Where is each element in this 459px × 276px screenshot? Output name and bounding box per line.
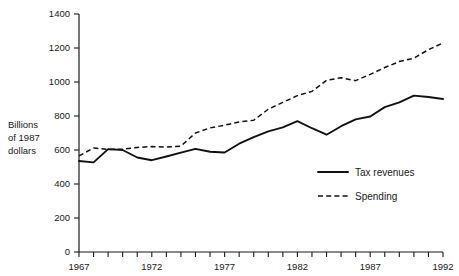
axes (79, 14, 443, 252)
x-tick-label-1992: 1992 (432, 261, 453, 272)
y-axis-title-line-1: Billions (8, 119, 38, 130)
series-line-spending (79, 43, 443, 156)
x-axis-tick-labels: 196719721977198219871992 (68, 261, 453, 272)
y-axis-title: Billions of 1987 dollars (8, 119, 40, 156)
x-axis-ticks (79, 252, 443, 257)
y-axis-title-line-3: dollars (8, 145, 36, 156)
y-tick-label-1000: 1000 (49, 76, 70, 87)
series-layer (79, 43, 443, 163)
y-tick-label-1400: 1400 (49, 8, 70, 19)
x-tick-label-1982: 1982 (287, 261, 308, 272)
y-tick-label-600: 600 (54, 144, 70, 155)
series-line-tax-revenues (79, 96, 443, 163)
x-tick-label-1972: 1972 (141, 261, 162, 272)
legend-label-spending: Spending (355, 191, 397, 202)
y-tick-label-800: 800 (54, 110, 70, 121)
x-tick-label-1987: 1987 (360, 261, 381, 272)
y-tick-label-400: 400 (54, 178, 70, 189)
y-axis-ticks (74, 14, 79, 252)
line-chart: Billions of 1987 dollars 020040060080010… (0, 0, 459, 276)
chart-screen: Billions of 1987 dollars 020040060080010… (0, 0, 459, 276)
legend-label-tax-revenues: Tax revenues (355, 167, 414, 178)
y-axis-title-line-2: of 1987 (8, 132, 40, 143)
chart-legend: Tax revenues Spending (318, 167, 414, 202)
x-tick-label-1967: 1967 (68, 261, 89, 272)
x-tick-label-1977: 1977 (214, 261, 235, 272)
y-tick-label-1200: 1200 (49, 42, 70, 53)
y-axis-tick-labels: 0200400600800100012001400 (49, 8, 70, 257)
y-tick-label-200: 200 (54, 212, 70, 223)
y-tick-label-0: 0 (65, 246, 70, 257)
